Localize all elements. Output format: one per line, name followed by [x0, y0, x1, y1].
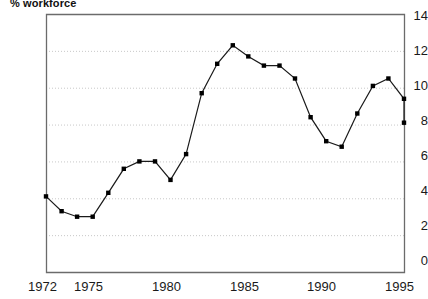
- data-point-marker: [402, 121, 406, 125]
- data-point-marker: [402, 97, 406, 101]
- data-point-marker: [340, 145, 344, 149]
- gridlines: [46, 51, 404, 235]
- line-chart: % workforce 14 12 10 8 6 4 2 0 1972 1975…: [0, 0, 428, 299]
- data-point-marker: [200, 91, 204, 95]
- data-point-marker: [324, 139, 328, 143]
- data-point-marker: [262, 63, 266, 67]
- data-point-marker: [246, 54, 250, 58]
- x-tick-label: 1975: [74, 280, 103, 293]
- data-point-marker: [122, 167, 126, 171]
- data-point-marker: [168, 178, 172, 182]
- data-point-marker: [106, 191, 110, 195]
- data-point-marker: [59, 209, 63, 213]
- x-tick-label: 1995: [385, 280, 414, 293]
- series-markers: [44, 43, 406, 219]
- data-point-marker: [91, 215, 95, 219]
- data-point-marker: [277, 63, 281, 67]
- data-point-marker: [215, 62, 219, 66]
- data-point-marker: [75, 215, 79, 219]
- data-point-marker: [137, 159, 141, 163]
- data-point-marker: [44, 194, 48, 198]
- data-point-marker: [386, 76, 390, 80]
- data-point-marker: [308, 115, 312, 119]
- data-point-marker: [184, 152, 188, 156]
- data-point-marker: [371, 84, 375, 88]
- x-tick-label: 1990: [307, 280, 336, 293]
- x-tick-label: 1985: [230, 280, 259, 293]
- x-tick-label: 1980: [152, 280, 181, 293]
- series-line: [46, 45, 404, 216]
- data-point-marker: [293, 76, 297, 80]
- data-point-marker: [231, 43, 235, 47]
- x-tick-label: 1972: [28, 280, 57, 293]
- data-point-marker: [355, 111, 359, 115]
- plot-area: [0, 0, 428, 299]
- data-point-marker: [153, 159, 157, 163]
